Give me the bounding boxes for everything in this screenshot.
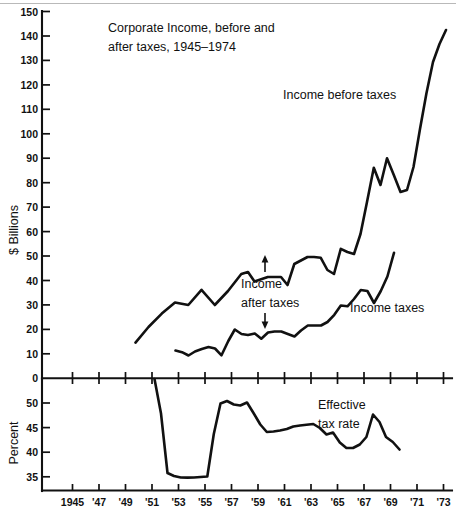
annotation-arrow-up-icon <box>262 255 269 272</box>
label-income-before-taxes: Income before taxes <box>283 88 396 102</box>
label-income-after-taxes-line1: Income <box>241 277 282 291</box>
top-y-tick-0: 0 <box>32 372 38 384</box>
top-y-tick-30: 30 <box>26 299 38 311</box>
top-y-tick-50: 50 <box>26 250 38 262</box>
x-tick-label-1965: '65 <box>330 496 344 508</box>
x-tick-label-1971: '71 <box>410 496 424 508</box>
top-y-tick-90: 90 <box>26 152 38 164</box>
bottom-panel-y-ticks <box>42 403 50 477</box>
top-panel-y-axis-title: $ Billions <box>7 205 21 255</box>
chart-title-line-1: Corporate Income, before and <box>108 21 275 35</box>
x-tick-label-1961: '61 <box>277 496 291 508</box>
x-tick-label-1957: '57 <box>224 496 238 508</box>
series-effective-tax-rate <box>155 379 400 478</box>
x-tick-label-1967: '67 <box>357 496 371 508</box>
top-y-tick-10: 10 <box>26 348 38 360</box>
top-y-tick-80: 80 <box>26 177 38 189</box>
x-tick-label-1955: '55 <box>198 496 212 508</box>
label-effective-tax-rate-line2: tax rate <box>318 417 360 431</box>
x-tick-label-1951: '51 <box>145 496 159 508</box>
x-tick-label-1945: 1945 <box>61 496 85 508</box>
annotation-arrow-down-icon <box>262 313 269 329</box>
bottom-y-tick-35: 35 <box>26 471 38 483</box>
top-y-tick-20: 20 <box>26 323 38 335</box>
top-y-tick-140: 140 <box>20 30 38 42</box>
top-panel: 150 140 130 120 110 100 90 80 70 60 50 4… <box>7 6 452 385</box>
label-effective-tax-rate-line1: Effective <box>318 398 366 412</box>
bottom-y-tick-45: 45 <box>26 422 38 434</box>
chart-title-line-2: after taxes, 1945–1974 <box>108 40 236 54</box>
bottom-y-tick-50: 50 <box>26 397 38 409</box>
x-tick-label-1973: '73 <box>436 496 450 508</box>
top-y-tick-110: 110 <box>21 103 38 115</box>
corporate-income-figure: 150 140 130 120 110 100 90 80 70 60 50 4… <box>0 0 456 521</box>
top-y-tick-120: 120 <box>20 79 38 91</box>
top-y-tick-40: 40 <box>26 275 38 287</box>
x-tick-label-1947: '47 <box>92 496 106 508</box>
x-tick-label-1969: '69 <box>383 496 397 508</box>
bottom-panel: 50 45 40 35 Percent Effective tax rate <box>7 379 452 508</box>
x-tick-label-1953: '53 <box>171 496 185 508</box>
bottom-y-tick-40: 40 <box>26 446 38 458</box>
x-tick-label-1949: '49 <box>118 496 132 508</box>
chart-svg: 150 140 130 120 110 100 90 80 70 60 50 4… <box>0 0 456 521</box>
top-y-tick-130: 130 <box>20 54 38 66</box>
top-y-tick-100: 100 <box>20 128 38 140</box>
label-income-taxes: Income taxes <box>350 301 424 315</box>
x-tick-label-1963: '63 <box>304 496 318 508</box>
top-y-tick-70: 70 <box>26 201 38 213</box>
top-panel-y-ticks <box>42 12 50 354</box>
bottom-panel-y-axis-title: Percent <box>7 421 21 465</box>
top-y-tick-60: 60 <box>26 226 38 238</box>
x-tick-label-1959: '59 <box>251 496 265 508</box>
top-y-tick-150: 150 <box>20 6 38 18</box>
label-income-after-taxes-line2: after taxes <box>241 296 299 310</box>
